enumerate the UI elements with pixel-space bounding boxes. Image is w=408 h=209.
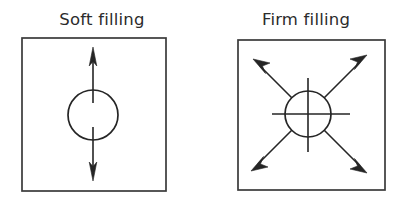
soft-filling-diagram — [0, 0, 204, 209]
figure-root: Soft filling Firm filling — [0, 0, 408, 209]
panel-soft-filling: Soft filling — [0, 0, 204, 209]
firm-filling-diagram — [204, 0, 408, 209]
panel-firm-filling: Firm filling — [204, 0, 408, 209]
